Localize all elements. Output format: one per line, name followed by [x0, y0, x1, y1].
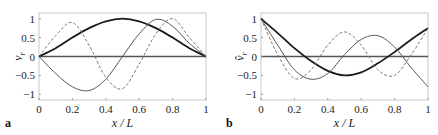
x-tick-label: 0.6 [132, 103, 146, 115]
x-tick-label: 0.2 [66, 103, 80, 115]
x-tick-label: 0 [36, 103, 42, 115]
y-tick-label: 0 [30, 51, 36, 63]
y-tick-label: −0.5 [237, 69, 257, 81]
panel-a: 10.50−0.5−100.20.40.60.81x / Lvra [5, 13, 209, 130]
series-thin-solid [261, 19, 428, 87]
x-tick-label: 0.2 [288, 103, 302, 115]
y-tick-label: −1 [245, 88, 257, 100]
x-tick-label: 1 [425, 103, 431, 115]
x-tick-label: 0.6 [354, 103, 368, 115]
y-axis-label: v̂r [233, 51, 249, 60]
y-tick-label: 0.5 [21, 32, 35, 44]
x-tick-label: 0 [258, 103, 264, 115]
series-thick-solid [39, 19, 206, 57]
x-axis-label: x / L [333, 116, 356, 130]
figure: 10.50−0.5−100.20.40.60.81x / Lvra10.50−0… [0, 0, 438, 135]
series-thin-solid [39, 19, 206, 91]
x-tick-label: 0.4 [321, 103, 335, 115]
series-dashed [261, 19, 428, 79]
x-axis-label: x / L [111, 116, 134, 130]
series-dashed [39, 19, 206, 89]
x-tick-label: 1 [203, 103, 209, 115]
x-tick-label: 0.4 [99, 103, 113, 115]
y-axis-label: vr [11, 51, 27, 60]
y-tick-label: 0.5 [243, 32, 257, 44]
y-tick-label: −1 [23, 88, 35, 100]
y-tick-label: 1 [252, 13, 258, 25]
y-tick-label: −0.5 [15, 69, 35, 81]
panel-label: b [226, 116, 233, 130]
x-tick-label: 0.8 [166, 103, 180, 115]
panel-b: 10.50−0.5−100.20.40.60.81x / Lv̂rb [226, 13, 431, 130]
x-tick-label: 0.8 [388, 103, 402, 115]
y-tick-label: 0 [252, 51, 258, 63]
y-tick-label: 1 [30, 13, 36, 25]
panel-label: a [5, 116, 11, 130]
